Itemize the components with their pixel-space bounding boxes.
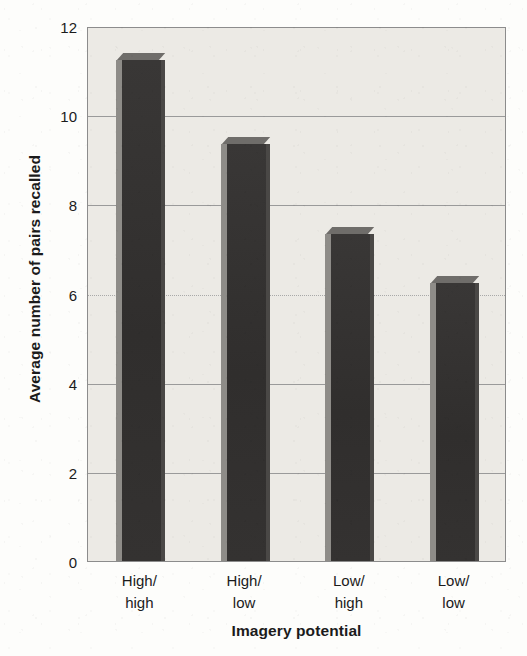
- bar-front-face: [331, 234, 374, 561]
- y-axis-tick-labels: 12 10 8 6 4 2 0: [0, 27, 87, 562]
- bar-right-edge: [370, 234, 374, 561]
- y-tick-label-0: 0: [11, 554, 87, 571]
- x-tick-line-2: high: [84, 592, 194, 614]
- y-tick-label-8: 8: [11, 197, 87, 214]
- bar-front-face: [122, 60, 165, 561]
- y-tick-label-4: 4: [11, 375, 87, 392]
- bar-chart-figure: Average number of pairs recalled 12 10 8…: [0, 0, 527, 656]
- bar-low-low[interactable]: [430, 276, 479, 561]
- x-tick-line-2: high: [294, 592, 404, 614]
- x-axis-title: Imagery potential: [87, 622, 506, 640]
- x-tick-line-2: low: [399, 592, 509, 614]
- y-tick-label-6: 6: [11, 286, 87, 303]
- bar-front-face: [436, 283, 479, 561]
- x-tick-line-1: High/: [84, 570, 194, 592]
- bar-low-high[interactable]: [325, 227, 374, 561]
- y-tick-label-12: 12: [11, 19, 87, 36]
- x-tick-line-1: Low/: [294, 570, 404, 592]
- x-tick-line-1: High/: [189, 570, 299, 592]
- bar-high-high[interactable]: [116, 53, 165, 561]
- bar-front-face: [227, 144, 270, 561]
- bar-right-edge: [266, 144, 270, 561]
- x-tick-label-low-high: Low/ high: [294, 570, 404, 614]
- bar-right-edge: [475, 283, 479, 561]
- x-tick-label-high-low: High/ low: [189, 570, 299, 614]
- x-tick-line-1: Low/: [399, 570, 509, 592]
- plot-area: [87, 27, 506, 562]
- bar-high-low[interactable]: [221, 137, 270, 561]
- x-tick-line-2: low: [189, 592, 299, 614]
- x-tick-label-high-high: High/ high: [84, 570, 194, 614]
- y-tick-label-2: 2: [11, 464, 87, 481]
- bar-right-edge: [161, 60, 165, 561]
- y-tick-label-10: 10: [11, 108, 87, 125]
- x-axis-tick-labels: High/ high High/ low Low/ high Low/ low: [87, 570, 506, 622]
- x-tick-label-low-low: Low/ low: [399, 570, 509, 614]
